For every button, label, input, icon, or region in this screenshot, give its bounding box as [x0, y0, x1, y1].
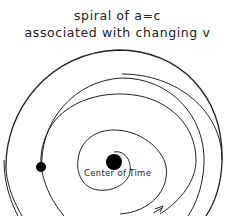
- orbiting-body-dot: [36, 162, 46, 172]
- center-of-time-label: Center of Time: [84, 168, 151, 178]
- direction-arrow-icon: [153, 206, 163, 213]
- spiral-curve: [41, 74, 222, 216]
- spiral-diagram: [0, 0, 235, 216]
- loop-3: [42, 78, 204, 216]
